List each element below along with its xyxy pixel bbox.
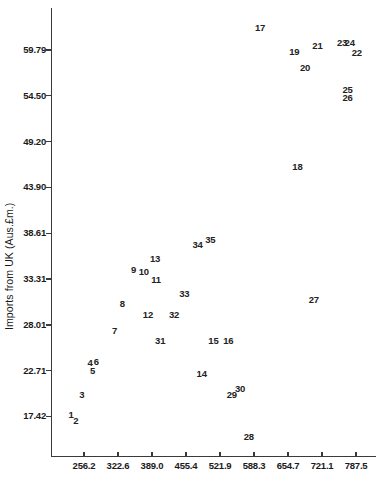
x-axis-tick-mark xyxy=(321,452,322,457)
y-axis-tick-mark xyxy=(46,141,51,142)
data-point-label: 11 xyxy=(151,276,161,286)
x-axis-tick-label: 721.1 xyxy=(311,461,334,471)
y-axis-tick-mark xyxy=(46,49,51,50)
x-axis-tick-label: 389.0 xyxy=(141,461,164,471)
x-axis-tick-label: 455.4 xyxy=(175,461,198,471)
data-point-label: 8 xyxy=(120,299,125,309)
data-point-label: 31 xyxy=(155,336,165,346)
data-point-label: 10 xyxy=(139,267,149,277)
y-axis-tick-mark xyxy=(46,95,51,96)
data-point-label: 26 xyxy=(343,94,353,104)
data-point-label: 2 xyxy=(73,416,78,426)
y-axis-tick-mark xyxy=(46,233,51,234)
data-point-label: 19 xyxy=(289,47,299,57)
x-axis-tick-mark xyxy=(253,452,254,457)
data-point-label: 15 xyxy=(208,337,218,347)
data-point-label: 17 xyxy=(255,24,265,34)
data-point-label: 34 xyxy=(192,240,202,250)
y-axis-tick-label: 59.79 xyxy=(23,45,46,55)
data-point-label: 30 xyxy=(235,384,245,394)
y-axis-tick-label: 54.50 xyxy=(23,91,46,101)
data-point-label: 14 xyxy=(197,370,207,380)
y-axis-title: Imports from UK (Aus.£m.) xyxy=(2,50,16,330)
data-point-label: 33 xyxy=(179,289,189,299)
x-axis-tick-label: 322.6 xyxy=(107,461,130,471)
x-axis-line xyxy=(51,456,376,457)
data-point-label: 35 xyxy=(205,235,215,245)
data-point-label: 3 xyxy=(79,390,84,400)
y-axis-tick-mark xyxy=(46,278,51,279)
data-point-label: 21 xyxy=(312,42,322,52)
y-axis-tick-mark xyxy=(46,324,51,325)
x-axis-tick-label: 256.2 xyxy=(73,461,96,471)
data-point-label: 12 xyxy=(143,311,153,321)
data-point-label: 32 xyxy=(169,310,179,320)
y-axis-tick-label: 43.90 xyxy=(23,182,46,192)
x-axis-tick-label: 787.5 xyxy=(345,461,368,471)
y-axis-line xyxy=(51,8,52,457)
data-point-label: 28 xyxy=(244,432,254,442)
data-point-label: 27 xyxy=(309,296,319,306)
data-point-label: 7 xyxy=(112,326,117,336)
y-axis-tick-mark xyxy=(46,370,51,371)
data-point-label: 22 xyxy=(352,48,362,58)
y-axis-tick-mark xyxy=(46,416,51,417)
y-axis-tick-label: 17.42 xyxy=(23,411,46,421)
x-axis-tick-mark xyxy=(117,452,118,457)
data-point-label: 20 xyxy=(300,63,310,73)
data-point-label: 5 xyxy=(90,366,95,376)
y-axis-tick-mark xyxy=(46,187,51,188)
x-axis-tick-mark xyxy=(151,452,152,457)
x-axis-tick-label: 521.9 xyxy=(209,461,232,471)
data-point-label: 16 xyxy=(223,337,233,347)
x-axis-tick-mark xyxy=(185,452,186,457)
data-point-label: 13 xyxy=(150,254,160,264)
x-axis-tick-mark xyxy=(219,452,220,457)
y-axis-tick-label: 33.31 xyxy=(23,274,46,284)
x-axis-tick-label: 588.3 xyxy=(243,461,266,471)
x-axis-tick-mark xyxy=(83,452,84,457)
x-axis-tick-mark xyxy=(355,452,356,457)
y-axis-tick-label: 22.71 xyxy=(23,366,46,376)
y-axis-tick-label: 28.01 xyxy=(23,320,46,330)
y-axis-tick-label: 38.61 xyxy=(23,228,46,238)
data-point-label: 9 xyxy=(131,265,136,275)
x-axis-tick-mark xyxy=(287,452,288,457)
data-point-label: 18 xyxy=(292,162,302,172)
data-point-label: 24 xyxy=(345,39,355,49)
scatter-plot-figure: Imports from UK (Aus.£m.) 17.4222.7128.0… xyxy=(0,0,385,481)
y-axis-tick-label: 49.20 xyxy=(23,137,46,147)
x-axis-tick-label: 654.7 xyxy=(277,461,300,471)
